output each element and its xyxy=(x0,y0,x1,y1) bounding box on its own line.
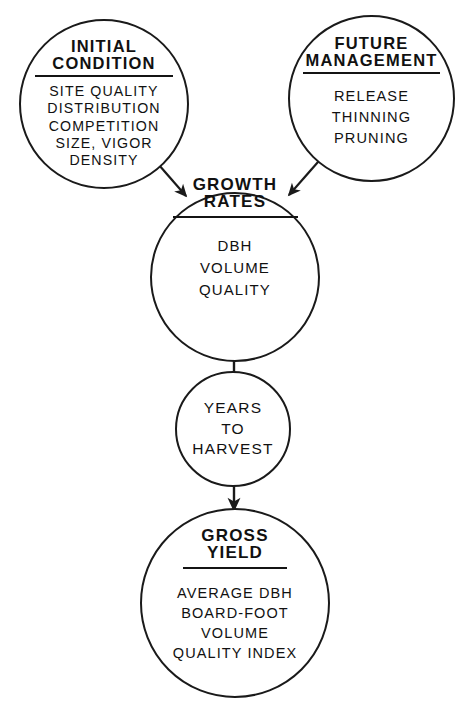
node-gross-yield-divider xyxy=(183,567,287,569)
node-initial-condition[interactable]: INITIAL CONDITION SITE QUALITY DISTRIBUT… xyxy=(19,19,189,189)
node-gross-yield[interactable]: GROSS YIELD AVERAGE DBH BOARD-FOOT VOLUM… xyxy=(140,508,330,698)
node-years-to-harvest[interactable]: YEARS TO HARVEST xyxy=(175,371,291,487)
node-growth-rates-body: DBH VOLUME QUALITY xyxy=(199,235,271,300)
node-growth-rates[interactable]: GROWTH RATES DBH VOLUME QUALITY xyxy=(150,192,320,362)
node-future-management-body: RELEASE THINNING PRUNING xyxy=(332,86,411,149)
node-years-to-harvest-title: YEARS TO HARVEST xyxy=(192,398,273,459)
node-future-management[interactable]: FUTURE MANAGEMENT RELEASE THINNING PRUNI… xyxy=(288,15,455,182)
node-future-management-title: FUTURE MANAGEMENT xyxy=(305,35,437,69)
node-growth-rates-divider xyxy=(173,216,298,218)
node-growth-rates-title: GROWTH RATES xyxy=(193,176,278,211)
node-initial-condition-body: SITE QUALITY DISTRIBUTION COMPETITION SI… xyxy=(47,83,160,170)
flow-diagram: INITIAL CONDITION SITE QUALITY DISTRIBUT… xyxy=(0,0,471,715)
node-initial-condition-title: INITIAL CONDITION xyxy=(52,38,155,72)
node-initial-condition-divider xyxy=(35,75,173,77)
node-gross-yield-title: GROSS YIELD xyxy=(201,527,268,562)
node-initial-condition-content: INITIAL CONDITION SITE QUALITY DISTRIBUT… xyxy=(21,38,187,170)
node-gross-yield-content: GROSS YIELD AVERAGE DBH BOARD-FOOT VOLUM… xyxy=(142,527,328,663)
node-years-to-harvest-content: YEARS TO HARVEST xyxy=(177,398,289,459)
node-gross-yield-body: AVERAGE DBH BOARD-FOOT VOLUME QUALITY IN… xyxy=(173,583,297,663)
node-future-management-divider xyxy=(303,72,440,74)
node-future-management-content: FUTURE MANAGEMENT RELEASE THINNING PRUNI… xyxy=(290,35,453,150)
node-growth-rates-content: GROWTH RATES DBH VOLUME QUALITY xyxy=(152,176,318,300)
